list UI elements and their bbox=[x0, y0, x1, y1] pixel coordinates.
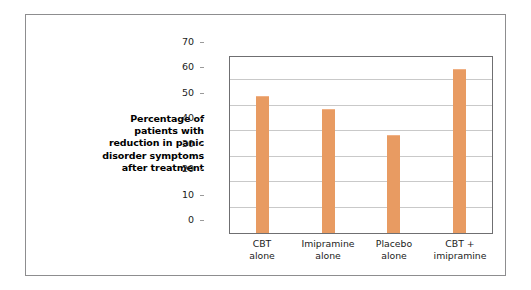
x-axis-tick-label: Imipraminealone bbox=[295, 238, 361, 261]
figure-outer-frame: Percentage of patients with reduction in… bbox=[25, 14, 506, 276]
y-axis-tick-mark bbox=[200, 118, 204, 119]
y-axis-title-line-4: disorder symptoms bbox=[54, 150, 204, 162]
plot-area bbox=[229, 56, 493, 234]
bar-slot bbox=[230, 57, 296, 233]
y-axis-tick-mark bbox=[200, 93, 204, 94]
x-axis-tick-label-line: Placebo bbox=[361, 238, 427, 250]
y-axis-tick-label: 0 bbox=[172, 215, 194, 225]
x-axis-tick-label-line: Imipramine bbox=[295, 238, 361, 250]
x-axis-tick-label: CBT +imipramine bbox=[427, 238, 493, 261]
bar[interactable] bbox=[387, 135, 400, 233]
x-axis-tick-label-line: CBT bbox=[229, 238, 295, 250]
y-axis-tick-mark bbox=[200, 67, 204, 68]
x-axis-tick-labels: CBTaloneImipraminealonePlaceboaloneCBT +… bbox=[229, 238, 493, 261]
y-axis-title-line-2: patients with bbox=[54, 125, 204, 137]
y-axis-tick-label: 40 bbox=[172, 113, 194, 123]
y-axis-tick-mark bbox=[200, 144, 204, 145]
bar-slot bbox=[296, 57, 362, 233]
x-axis-tick-label-line: CBT + bbox=[427, 238, 493, 250]
y-axis-tick-mark bbox=[200, 169, 204, 170]
x-axis-tick-label: Placeboalone bbox=[361, 238, 427, 261]
y-axis-tick-mark bbox=[200, 195, 204, 196]
bar[interactable] bbox=[453, 69, 466, 233]
bar-slot bbox=[361, 57, 427, 233]
y-axis-tick-mark bbox=[200, 220, 204, 221]
x-axis-tick-label-line: alone bbox=[361, 250, 427, 262]
y-axis-tick-mark bbox=[200, 42, 204, 43]
bar[interactable] bbox=[322, 109, 335, 233]
y-axis-tick-label: 20 bbox=[172, 164, 194, 174]
x-axis-tick-label-line: alone bbox=[295, 250, 361, 262]
y-axis-tick-label: 60 bbox=[172, 62, 194, 72]
x-axis-tick-label-line: alone bbox=[229, 250, 295, 262]
bar-slot bbox=[427, 57, 493, 233]
y-axis-tick-label: 50 bbox=[172, 88, 194, 98]
x-axis-tick-label-line: imipramine bbox=[427, 250, 493, 262]
y-axis-tick-label: 30 bbox=[172, 139, 194, 149]
y-axis-tick-label: 10 bbox=[172, 190, 194, 200]
x-axis-tick-label: CBTalone bbox=[229, 238, 295, 261]
bar[interactable] bbox=[256, 96, 269, 233]
y-axis-tick-label: 70 bbox=[172, 37, 194, 47]
bar-series bbox=[230, 57, 492, 233]
